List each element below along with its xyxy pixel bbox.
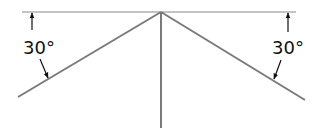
right-angle-label: 30° (272, 37, 304, 58)
left-dimension-arrow-down (40, 59, 48, 78)
left-angle-label: 30° (23, 37, 55, 58)
right-dimension-arrow-down (274, 60, 281, 79)
angle-diagram: 30° 30° (0, 0, 318, 130)
